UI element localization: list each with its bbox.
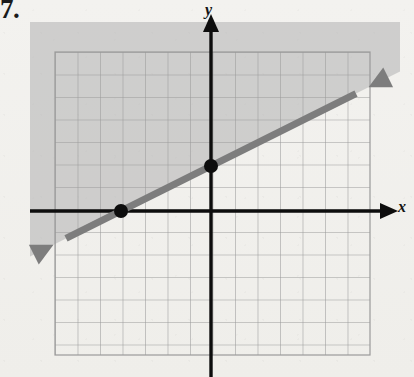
y-axis-label: y <box>205 1 212 19</box>
x-axis-label: x <box>398 198 406 216</box>
coordinate-plane-graph <box>0 0 414 377</box>
point-y-intercept <box>204 159 218 173</box>
point-x-intercept <box>114 204 128 218</box>
x-axis-arrowhead <box>380 203 398 219</box>
